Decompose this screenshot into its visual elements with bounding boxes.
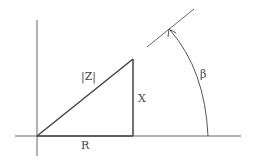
label-beta: β xyxy=(200,69,206,80)
angle-arc xyxy=(170,30,208,136)
label-x: X xyxy=(138,93,146,104)
diagram-canvas xyxy=(0,0,262,162)
impedance-diagram: |Z| X R β xyxy=(0,0,262,162)
angle-reference-line xyxy=(147,9,194,47)
label-r: R xyxy=(81,140,89,151)
label-z: |Z| xyxy=(81,71,96,82)
